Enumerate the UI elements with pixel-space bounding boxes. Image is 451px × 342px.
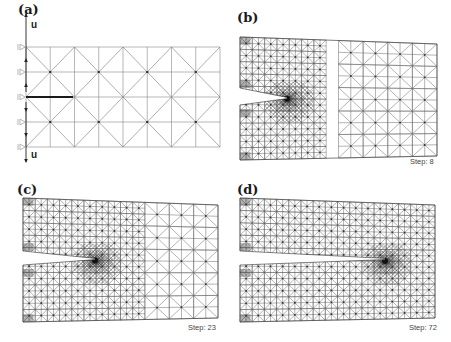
displacement-label-top: u <box>31 20 37 30</box>
panel-a-initial-mesh <box>18 13 220 163</box>
panel-d-mesh-step-72 <box>238 198 435 322</box>
panel-label-d: (d) <box>237 183 258 196</box>
step-label-d: Step: 72 <box>409 324 437 332</box>
panel-label-b: (b) <box>237 11 258 24</box>
mesh-figure <box>0 0 451 342</box>
panel-label-c: (c) <box>17 183 37 196</box>
step-label-b: Step: 8 <box>410 158 434 166</box>
panel-b-mesh-step-8 <box>238 37 437 160</box>
panel-c-mesh-step-23 <box>21 198 218 322</box>
panel-label-a: (a) <box>18 3 39 16</box>
displacement-label-bottom: u <box>31 150 37 160</box>
step-label-c: Step: 23 <box>188 324 216 332</box>
